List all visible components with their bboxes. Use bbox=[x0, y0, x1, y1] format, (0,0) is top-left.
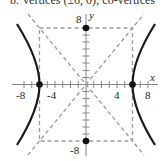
x-tick-label-4: 4 bbox=[114, 89, 120, 101]
co-vertex-top bbox=[83, 25, 90, 32]
y-tick-label-8: 8 bbox=[76, 13, 82, 25]
vertex-left bbox=[36, 81, 43, 88]
x-tick-label-neg8: -8 bbox=[16, 89, 26, 101]
y-tick-label-neg8: -8 bbox=[70, 144, 80, 156]
x-tick-label-neg4: -4 bbox=[47, 89, 57, 101]
x-tick-label-8: 8 bbox=[145, 89, 151, 101]
y-axis-label: y bbox=[88, 9, 94, 21]
x-axis-label: x bbox=[149, 71, 155, 83]
vertex-right bbox=[129, 81, 136, 88]
co-vertex-bottom bbox=[83, 138, 90, 145]
hyperbola-graph: -8 -4 4 8 8 -8 x y bbox=[0, 0, 165, 161]
